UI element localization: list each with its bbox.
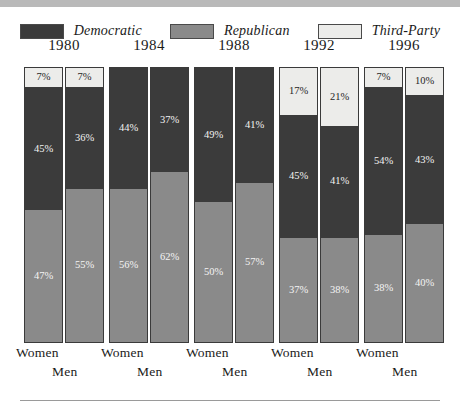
segment-democratic: 54% — [365, 87, 402, 235]
top-rule — [0, 0, 460, 7]
segment-third-party: 21% — [321, 68, 358, 126]
bar-men[interactable]: 10% 43% 40% — [405, 67, 444, 343]
axis-label-women: Women — [101, 345, 163, 361]
bar-pair: 7% 54% 38% 10% 43% 40% — [364, 67, 444, 343]
bar-men[interactable]: 41% 57% — [235, 67, 274, 343]
segment-third-party: 7% — [365, 68, 402, 87]
group-year-label: 1988 — [192, 37, 276, 54]
segment-democratic: 44% — [110, 68, 147, 189]
segment-democratic: 45% — [280, 115, 317, 238]
bar-pair: 7% 45% 47% 7% 36% 55% — [24, 67, 104, 343]
segment-republican: 56% — [110, 189, 147, 342]
segment-democratic: 37% — [151, 68, 188, 172]
group-axis-labels: Women Men — [192, 345, 276, 387]
bar-pair: 49% 50% 41% 57% — [194, 67, 274, 343]
axis-label-men: Men — [222, 364, 284, 380]
bar-men[interactable]: 21% 41% 38% — [320, 67, 359, 343]
chart-container: Democratic Republican Third-Party 1980 7… — [0, 7, 460, 413]
segment-republican: 47% — [25, 210, 62, 342]
bar-pair: 17% 45% 37% 21% 41% 38% — [279, 67, 359, 343]
segment-republican: 37% — [280, 238, 317, 342]
segment-republican: 38% — [321, 238, 358, 342]
group-1980: 1980 7% 45% 47% 7% 36% 55% — [22, 37, 106, 387]
segment-third-party: 17% — [280, 68, 317, 115]
segment-third-party: 10% — [406, 68, 443, 95]
group-axis-labels: Women Men — [277, 345, 361, 387]
group-year-label: 1984 — [107, 37, 191, 54]
segment-democratic: 41% — [321, 126, 358, 238]
group-1984: 1984 44% 56% 37% 62% Women Men — [107, 37, 191, 387]
plot-area: 1980 7% 45% 47% 7% 36% 55% — [0, 37, 460, 387]
bar-women[interactable]: 7% 54% 38% — [364, 67, 403, 343]
group-1992: 1992 17% 45% 37% 21% 41% 38% — [277, 37, 361, 387]
bar-pair: 44% 56% 37% 62% — [109, 67, 189, 343]
segment-republican: 50% — [195, 202, 232, 342]
axis-label-women: Women — [16, 345, 78, 361]
axis-label-men: Men — [392, 364, 454, 380]
bar-women[interactable]: 44% 56% — [109, 67, 148, 343]
segment-republican: 55% — [66, 189, 103, 342]
axis-label-women: Women — [186, 345, 248, 361]
segment-republican: 40% — [406, 224, 443, 342]
segment-democratic: 49% — [195, 68, 232, 202]
segment-democratic: 45% — [25, 87, 62, 210]
segment-third-party: 7% — [25, 68, 62, 87]
axis-label-women: Women — [271, 345, 333, 361]
segment-third-party: 7% — [66, 68, 103, 87]
group-1996: 1996 7% 54% 38% 10% 43% 40% — [362, 37, 446, 387]
group-year-label: 1996 — [362, 37, 446, 54]
group-year-label: 1980 — [22, 37, 106, 54]
segment-democratic: 41% — [236, 68, 273, 183]
group-axis-labels: Women Men — [362, 345, 446, 387]
segment-republican: 57% — [236, 183, 273, 342]
group-axis-labels: Women Men — [107, 345, 191, 387]
group-1988: 1988 49% 50% 41% 57% Women Men — [192, 37, 276, 387]
bar-men[interactable]: 7% 36% 55% — [65, 67, 104, 343]
group-axis-labels: Women Men — [22, 345, 106, 387]
axis-label-women: Women — [356, 345, 418, 361]
axis-label-men: Men — [137, 364, 199, 380]
segment-democratic: 43% — [406, 95, 443, 224]
bar-women[interactable]: 49% 50% — [194, 67, 233, 343]
segment-republican: 62% — [151, 172, 188, 342]
segment-republican: 38% — [365, 235, 402, 342]
axis-label-men: Men — [307, 364, 369, 380]
bottom-rule — [20, 400, 440, 401]
bar-men[interactable]: 37% 62% — [150, 67, 189, 343]
bar-women[interactable]: 17% 45% 37% — [279, 67, 318, 343]
group-year-label: 1992 — [277, 37, 361, 54]
bar-women[interactable]: 7% 45% 47% — [24, 67, 63, 343]
segment-democratic: 36% — [66, 87, 103, 188]
axis-label-men: Men — [52, 364, 114, 380]
